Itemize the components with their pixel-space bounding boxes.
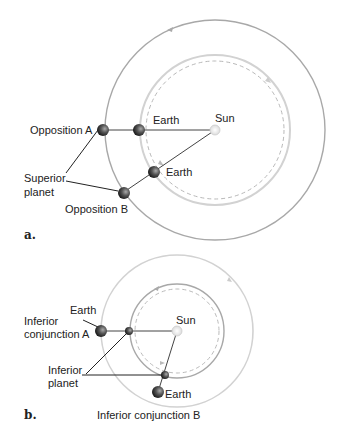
leader-line xyxy=(66,130,98,173)
superior-planet-b-icon xyxy=(118,187,130,199)
opposition-b-label: Opposition B xyxy=(65,203,128,215)
earth-b-icon xyxy=(152,386,164,398)
earth-a-icon xyxy=(95,325,107,337)
panel-a: Opposition A Earth Sun Earth Superior pl… xyxy=(24,20,325,242)
earth-a-icon xyxy=(133,124,145,136)
earth-b-label: Earth xyxy=(165,388,191,400)
sun-icon xyxy=(210,125,220,135)
inferior-conjunction-a-label-2: conjunction A xyxy=(24,328,90,340)
sun-icon xyxy=(172,326,182,336)
superior-planet-label-2: planet xyxy=(24,186,54,198)
earth-a-label: Earth xyxy=(70,304,96,316)
sun-label: Sun xyxy=(176,314,196,326)
inferior-planet-a-icon xyxy=(125,327,133,335)
leader-line xyxy=(83,320,98,327)
alignment-line-b xyxy=(124,130,215,192)
panel-a-label: a. xyxy=(24,228,36,242)
superior-planet-a-icon xyxy=(97,124,109,136)
leader-line xyxy=(86,331,129,374)
earth-b-icon xyxy=(148,166,160,178)
inferior-conjunction-b-label: Inferior conjunction B xyxy=(97,409,200,421)
earth-b-label: Earth xyxy=(166,166,192,178)
superior-planet-label-1: Superior xyxy=(24,172,66,184)
inferior-planet-b-icon xyxy=(161,371,169,379)
inferior-conjunction-a-label-1: Inferior xyxy=(24,315,59,327)
orbit-arrow-icon xyxy=(160,361,165,365)
sun-label: Sun xyxy=(215,112,235,124)
leader-line xyxy=(66,181,118,191)
planet-configurations-diagram: Opposition A Earth Sun Earth Superior pl… xyxy=(0,0,338,434)
earth-a-label: Earth xyxy=(153,114,179,126)
inferior-planet-label-2: planet xyxy=(48,377,78,389)
panel-b-label: b. xyxy=(24,408,37,422)
opposition-a-label: Opposition A xyxy=(30,124,93,136)
panel-b: Earth Inferior conjunction A Sun Inferio… xyxy=(24,255,253,422)
inferior-planet-label-1: Inferior xyxy=(48,364,83,376)
